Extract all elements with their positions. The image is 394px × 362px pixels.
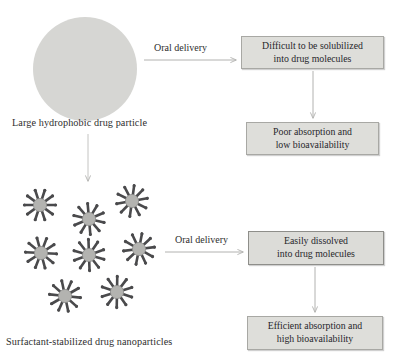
drug-nanoparticle [21, 233, 61, 273]
caption-nanoparticles: Surfactant-stabilized drug nanoparticles [6, 336, 172, 347]
label-oral-delivery-top: Oral delivery [154, 42, 207, 53]
figure-canvas: Large hydrophobic drug particle Oral del… [0, 0, 394, 362]
box-poor-line1: Poor absorption and [273, 126, 352, 139]
box-difficult-line1: Difficult to be solubilized [262, 40, 363, 53]
box-easily-line2: into drug molecules [277, 248, 355, 261]
drug-nanoparticle [20, 185, 60, 225]
drug-nanoparticle [69, 199, 109, 239]
drug-nanoparticle [69, 235, 109, 275]
box-difficult-line2: into drug molecules [274, 53, 352, 66]
box-poor-line2: low bioavailability [276, 139, 350, 152]
drug-nanoparticle [112, 181, 152, 221]
drug-nanoparticle [97, 272, 137, 312]
box-easily-dissolved: Easily dissolved into drug molecules [248, 231, 384, 265]
drug-nanoparticle [119, 229, 159, 269]
box-easily-line1: Easily dissolved [284, 235, 348, 248]
box-poor-absorption: Poor absorption and low bioavailability [246, 122, 379, 155]
caption-large-particle: Large hydrophobic drug particle [12, 117, 147, 128]
box-efficient-line2: high bioavailability [277, 333, 353, 346]
box-efficient-line1: Efficient absorption and [268, 320, 363, 333]
drug-nanoparticle [45, 276, 85, 316]
label-oral-delivery-bottom: Oral delivery [175, 234, 228, 245]
box-efficient-absorption: Efficient absorption and high bioavailab… [247, 316, 383, 350]
box-difficult-to-solubilize: Difficult to be solubilized into drug mo… [241, 36, 384, 69]
large-drug-particle-circle [33, 17, 137, 121]
